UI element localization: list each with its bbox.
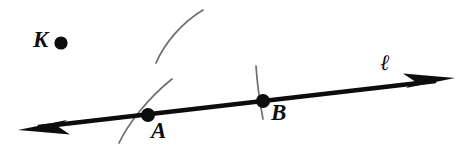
line-ell-arrowhead-end (403, 74, 455, 89)
construction-arc-upper-path (156, 10, 203, 63)
point-k-label: K (33, 28, 48, 51)
line-ell-group (18, 74, 455, 135)
line-ell-shaft (38, 81, 436, 127)
line-ell-arrowhead-start (18, 120, 70, 135)
construction-tick-at-b-path (256, 66, 263, 119)
point-k-dot (54, 36, 67, 49)
diagram-canvas (0, 0, 459, 147)
point-b-label: B (271, 101, 286, 124)
point-b-dot (256, 94, 270, 108)
geometry-diagram: K A B ℓ (0, 0, 459, 147)
point-a-label: A (151, 119, 166, 142)
line-ell-label: ℓ (380, 52, 389, 74)
construction-arcs-group (119, 10, 263, 143)
